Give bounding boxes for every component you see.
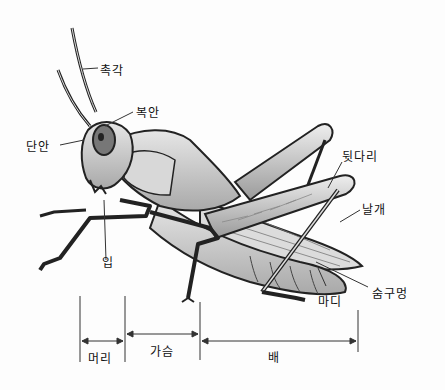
grasshopper-diagram: 촉각 복안 단안 뒷다리 날개 입 마디 숨구멍 머리 가슴 배 bbox=[0, 0, 445, 390]
label-antenna: 촉각 bbox=[100, 61, 124, 78]
label-thorax: 가슴 bbox=[150, 342, 174, 359]
label-hind-leg: 뒷다리 bbox=[342, 147, 378, 164]
compound-eye bbox=[93, 125, 115, 155]
label-simple-eye: 단안 bbox=[26, 137, 50, 154]
antennae bbox=[58, 28, 96, 126]
dimension-lines bbox=[80, 296, 358, 362]
label-head: 머리 bbox=[88, 349, 112, 366]
label-segment: 마디 bbox=[318, 292, 342, 309]
label-mouth: 입 bbox=[98, 256, 115, 269]
label-compound-eye: 복안 bbox=[136, 103, 160, 120]
grasshopper-illustration bbox=[0, 0, 445, 390]
label-wing: 날개 bbox=[362, 200, 386, 217]
label-spiracle: 숨구멍 bbox=[372, 284, 408, 301]
label-abdomen: 배 bbox=[268, 348, 280, 365]
